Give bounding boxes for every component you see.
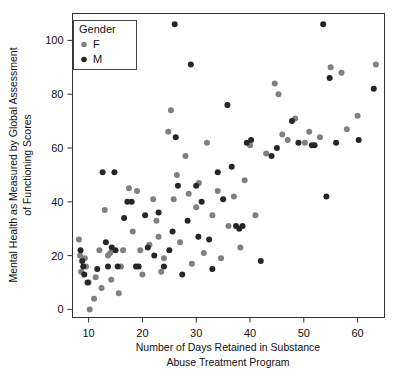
data-point	[269, 153, 275, 159]
data-point	[165, 129, 171, 135]
y-tick-label: 60	[51, 142, 63, 154]
data-point	[94, 266, 100, 272]
data-point	[263, 150, 269, 156]
chart-canvas: 102030405060 020406080100 Gender F M Num…	[0, 0, 395, 382]
data-point	[312, 142, 318, 148]
y-axis-label-line2: of Functioning Scores	[21, 114, 33, 216]
data-point	[150, 196, 156, 202]
x-axis-label-line1: Number of Days Retained in Substance	[136, 341, 321, 353]
x-axis-label-line2: Abuse Treatment Program	[166, 356, 289, 368]
data-point	[172, 21, 178, 27]
data-point	[188, 62, 194, 68]
data-point	[142, 212, 148, 218]
data-point	[177, 239, 183, 245]
data-point	[289, 118, 295, 124]
data-point	[193, 204, 199, 210]
data-point	[237, 245, 243, 251]
data-point	[206, 236, 212, 242]
x-tick-label: 10	[83, 327, 95, 339]
x-tick-label: 50	[298, 327, 310, 339]
data-point	[333, 140, 339, 146]
y-axis-label-line1: Mental Health as Measured by Global Asse…	[7, 47, 19, 282]
data-point	[229, 164, 235, 170]
data-point	[151, 253, 157, 259]
data-point	[129, 199, 135, 205]
data-point	[102, 207, 108, 213]
data-point	[199, 199, 205, 205]
data-point	[189, 261, 195, 267]
data-point	[248, 137, 254, 143]
x-tick-label: 30	[190, 327, 202, 339]
data-point	[107, 250, 113, 256]
data-point	[103, 239, 109, 245]
data-point	[356, 137, 362, 143]
data-point	[108, 277, 114, 283]
data-point	[373, 62, 379, 68]
data-point	[215, 188, 221, 194]
data-point	[186, 191, 192, 197]
data-point	[87, 306, 93, 312]
data-point	[272, 80, 278, 86]
y-axis-ticks: 020406080100	[45, 34, 72, 315]
data-point	[100, 169, 106, 175]
data-point	[136, 263, 142, 269]
data-point	[171, 196, 177, 202]
data-point	[130, 228, 136, 234]
data-point	[226, 223, 232, 229]
data-point	[168, 107, 174, 113]
data-point	[193, 183, 199, 189]
data-point	[338, 70, 344, 76]
legend: Gender F M	[74, 21, 137, 70]
x-tick-label: 60	[351, 327, 363, 339]
data-point	[174, 172, 180, 178]
data-point	[276, 91, 282, 97]
data-point	[295, 140, 301, 146]
data-point	[76, 236, 82, 242]
data-point	[81, 271, 87, 277]
data-point	[218, 255, 224, 261]
data-point	[320, 21, 326, 27]
legend-marker-m	[81, 57, 87, 63]
y-tick-label: 100	[45, 34, 63, 46]
data-point	[204, 140, 210, 146]
data-point	[209, 212, 215, 218]
y-tick-label: 0	[57, 303, 63, 315]
data-point	[153, 218, 159, 224]
data-point	[195, 234, 201, 240]
data-point	[99, 285, 105, 291]
data-point	[134, 188, 140, 194]
data-point	[328, 64, 334, 70]
data-point	[111, 169, 117, 175]
data-point	[175, 183, 181, 189]
data-point	[209, 266, 215, 272]
data-point	[78, 247, 84, 253]
legend-title: Gender	[79, 23, 116, 35]
data-point	[105, 263, 111, 269]
data-point	[161, 263, 167, 269]
data-point	[185, 218, 191, 224]
data-point	[258, 258, 264, 264]
data-point	[224, 102, 230, 108]
data-point	[85, 280, 91, 286]
data-point	[344, 126, 350, 132]
x-tick-label: 40	[244, 327, 256, 339]
y-tick-label: 20	[51, 250, 63, 262]
data-point	[116, 290, 122, 296]
data-point	[93, 274, 99, 280]
data-point	[96, 247, 102, 253]
data-point	[79, 258, 85, 264]
data-point	[355, 113, 361, 119]
data-point	[306, 129, 312, 135]
data-point	[170, 228, 176, 234]
data-point	[161, 255, 167, 261]
data-point	[158, 269, 164, 275]
data-point	[215, 169, 221, 175]
data-point	[113, 247, 119, 253]
data-point	[274, 145, 280, 151]
data-point	[302, 140, 308, 146]
data-point	[156, 234, 162, 240]
y-tick-label: 80	[51, 88, 63, 100]
data-point	[327, 75, 333, 81]
data-point	[231, 193, 237, 199]
data-point	[145, 245, 151, 251]
